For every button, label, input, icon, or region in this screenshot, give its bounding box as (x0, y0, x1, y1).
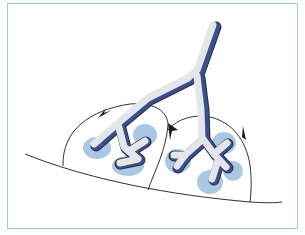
septal-marker-icon (242, 126, 246, 140)
pleural-surface-line (25, 154, 282, 203)
lung-acinus-diagram (0, 0, 305, 235)
septal-marker-icon (98, 108, 112, 118)
left-lobule-outline (63, 104, 168, 190)
